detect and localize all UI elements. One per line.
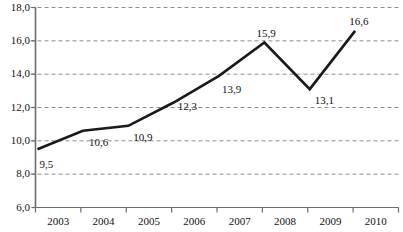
x-tick-label: 2007 — [218, 216, 262, 227]
x-tick-label: 2003 — [36, 216, 80, 227]
x-tick-label: 2008 — [263, 216, 307, 227]
x-tick-label: 2005 — [127, 216, 171, 227]
line-chart: 6,08,010,012,014,016,018,0 2003200420052… — [0, 0, 403, 232]
point-value-label: 15,9 — [256, 28, 275, 39]
data-series-line — [38, 31, 356, 149]
point-value-label: 12,3 — [178, 101, 197, 112]
chart-canvas — [0, 0, 403, 232]
y-tick-label: 8,0 — [0, 168, 30, 179]
x-tick-label: 2010 — [354, 216, 398, 227]
series-polyline — [38, 31, 356, 149]
gridlines-group — [31, 8, 399, 175]
x-tick-label: 2006 — [172, 216, 216, 227]
y-tick-label: 14,0 — [0, 68, 30, 79]
y-tick-label: 16,0 — [0, 35, 30, 46]
x-tick-label: 2004 — [82, 216, 126, 227]
x-tick-marks-group — [36, 208, 399, 213]
y-tick-label: 12,0 — [0, 102, 30, 113]
x-tick-label: 2009 — [308, 216, 352, 227]
point-value-label: 9,5 — [40, 159, 54, 170]
point-value-label: 13,9 — [222, 84, 241, 95]
y-tick-label: 18,0 — [0, 2, 30, 13]
y-tick-label: 6,0 — [0, 202, 30, 213]
y-tick-label: 10,0 — [0, 135, 30, 146]
point-value-label: 10,9 — [133, 132, 152, 143]
point-value-label: 13,1 — [315, 95, 334, 106]
point-value-label: 16,6 — [349, 16, 368, 27]
point-value-label: 10,6 — [89, 137, 108, 148]
